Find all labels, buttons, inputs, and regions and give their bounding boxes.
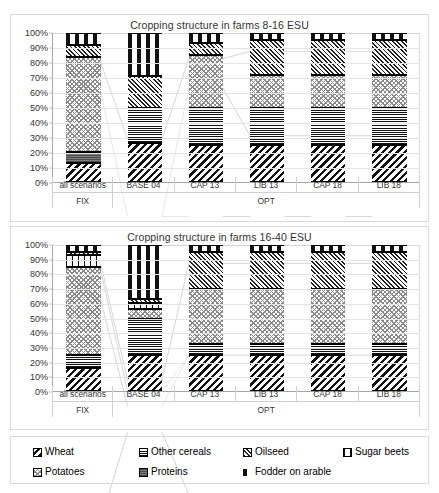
bar-segment-other_cereals[interactable]	[250, 344, 284, 354]
bar-segment-other_cereals[interactable]	[311, 108, 345, 145]
category-group-opt: OPT	[113, 402, 420, 417]
bar-segment-other_cereals[interactable]	[250, 108, 284, 145]
proteins-swatch-icon	[139, 468, 148, 477]
gridline	[53, 63, 420, 64]
category-label-all-scenarios: all scenarios	[52, 386, 113, 401]
bar-segment-oilseed[interactable]	[128, 299, 162, 303]
bar-segment-fodder[interactable]	[311, 33, 345, 40]
sugar-beets-swatch-icon	[343, 448, 352, 457]
legend-item-other-cereals: Other cereals	[139, 442, 211, 462]
bar-segment-oilseed[interactable]	[250, 40, 284, 74]
plot-area	[52, 245, 420, 392]
bar-segment-fodder[interactable]	[372, 245, 406, 252]
bar-segment-oilseed[interactable]	[311, 40, 345, 74]
gridline	[53, 319, 420, 320]
bar-segment-potatoes[interactable]	[311, 75, 345, 108]
bar-segment-fodder[interactable]	[189, 33, 223, 43]
chart-page: Cropping structure in farms 8-16 ESU 100…	[0, 0, 439, 493]
bar-segment-other_cereals[interactable]	[311, 344, 345, 354]
legend-label: Fodder on arable	[255, 467, 331, 477]
y-axis-tick-label: 80%	[30, 269, 48, 279]
gridline	[53, 260, 420, 261]
bar-segment-potatoes[interactable]	[372, 75, 406, 108]
bar-segment-fodder[interactable]	[66, 33, 100, 45]
bar-segment-fodder[interactable]	[311, 245, 345, 252]
bar-segment-potatoes[interactable]	[189, 289, 223, 344]
legend-item-potatoes: Potatoes	[33, 462, 84, 482]
bar-segment-other_cereals[interactable]	[66, 355, 100, 368]
bar-segment-oilseed[interactable]	[372, 40, 406, 74]
bar-segment-oilseed[interactable]	[311, 252, 345, 289]
gridline	[53, 108, 420, 109]
bar-segment-other_cereals[interactable]	[189, 108, 223, 145]
bar-segment-fodder[interactable]	[128, 245, 162, 299]
potatoes-swatch-icon	[33, 468, 42, 477]
category-row: all scenariosBASE 04CAP 13LIB 13CAP 18LI…	[52, 177, 420, 192]
bar-segment-other_cereals[interactable]	[372, 344, 406, 354]
bar-segment-fodder[interactable]	[372, 33, 406, 40]
bar-segment-potatoes[interactable]	[66, 267, 100, 355]
gridline	[53, 289, 420, 290]
category-group-fix: FIX	[52, 193, 113, 208]
y-axis-tick-label: 30%	[30, 343, 48, 353]
y-axis-tick-label: 60%	[30, 88, 48, 98]
legend-item-fodder: Fodder on arable	[243, 462, 331, 482]
bar-segment-oilseed[interactable]	[128, 76, 162, 107]
y-axis-tick-label: 70%	[30, 73, 48, 83]
bar-segment-potatoes[interactable]	[311, 289, 345, 344]
gridline	[53, 168, 420, 169]
gridline	[53, 274, 420, 275]
bar-segment-fodder[interactable]	[250, 33, 284, 40]
category-group-opt: OPT	[113, 193, 420, 208]
bar-segment-potatoes[interactable]	[250, 75, 284, 108]
category-label-lib-18: LIB 18	[359, 177, 420, 192]
bar-segment-oilseed[interactable]	[250, 252, 284, 289]
plot-area	[52, 33, 420, 183]
y-axis-tick-label: 80%	[30, 58, 48, 68]
y-axis-tick-label: 50%	[30, 314, 48, 324]
legend-row-2: Potatoes Proteins Fodder on arable	[11, 462, 428, 482]
category-group-fix: FIX	[52, 402, 113, 417]
y-axis-tick-label: 90%	[30, 43, 48, 53]
bar-segment-fodder[interactable]	[66, 245, 100, 252]
bar-segment-oilseed[interactable]	[66, 252, 100, 255]
y-axis-tick-label: 0%	[35, 387, 48, 397]
bar-segment-potatoes[interactable]	[372, 289, 406, 344]
bar-segment-fodder[interactable]	[128, 33, 162, 76]
bar-segment-other_cereals[interactable]	[189, 344, 223, 354]
bar-segment-oilseed[interactable]	[372, 252, 406, 289]
category-axis: all scenariosBASE 04CAP 13LIB 13CAP 18LI…	[52, 177, 420, 208]
category-label-all-scenarios: all scenarios	[52, 177, 113, 192]
bar-segment-oilseed[interactable]	[189, 43, 223, 55]
wheat-swatch-icon	[33, 448, 42, 457]
bar-segment-fodder[interactable]	[189, 245, 223, 252]
legend-item-oilseed: Oilseed	[243, 442, 289, 462]
category-group-row: FIXOPT	[52, 192, 420, 208]
bar-segment-other_cereals[interactable]	[128, 319, 162, 354]
y-axis-tick-label: 40%	[30, 328, 48, 338]
bar-segment-potatoes[interactable]	[250, 289, 284, 344]
category-label-cap-18: CAP 18	[297, 386, 358, 401]
bar-segment-oilseed[interactable]	[66, 45, 100, 57]
bar-segment-fodder[interactable]	[250, 245, 284, 252]
legend-label: Proteins	[151, 467, 188, 477]
gridline	[53, 123, 420, 124]
legend-item-proteins: Proteins	[139, 462, 188, 482]
chart-title: Cropping structure in farms 8-16 ESU	[11, 15, 428, 31]
legend-item-wheat: Wheat	[33, 442, 74, 462]
gridline	[53, 93, 420, 94]
chart-panel-16-40-esu: Cropping structure in farms 16-40 ESU 10…	[10, 226, 429, 430]
y-axis-tick-label: 30%	[30, 133, 48, 143]
category-row: all scenariosBASE 04CAP 13LIB 13CAP 18LI…	[52, 386, 420, 401]
category-axis: all scenariosBASE 04CAP 13LIB 13CAP 18LI…	[52, 386, 420, 417]
y-axis-tick-label: 70%	[30, 284, 48, 294]
bar-segment-oilseed[interactable]	[189, 252, 223, 289]
category-label-cap-13: CAP 13	[175, 177, 236, 192]
category-label-lib-18: LIB 18	[359, 386, 420, 401]
y-axis-tick-label: 10%	[30, 163, 48, 173]
bar-segment-sugar_beets[interactable]	[66, 255, 100, 267]
category-label-lib-13: LIB 13	[236, 386, 297, 401]
category-label-base-04: BASE 04	[113, 386, 174, 401]
bar-segment-other_cereals[interactable]	[372, 108, 406, 145]
category-label-cap-13: CAP 13	[175, 386, 236, 401]
